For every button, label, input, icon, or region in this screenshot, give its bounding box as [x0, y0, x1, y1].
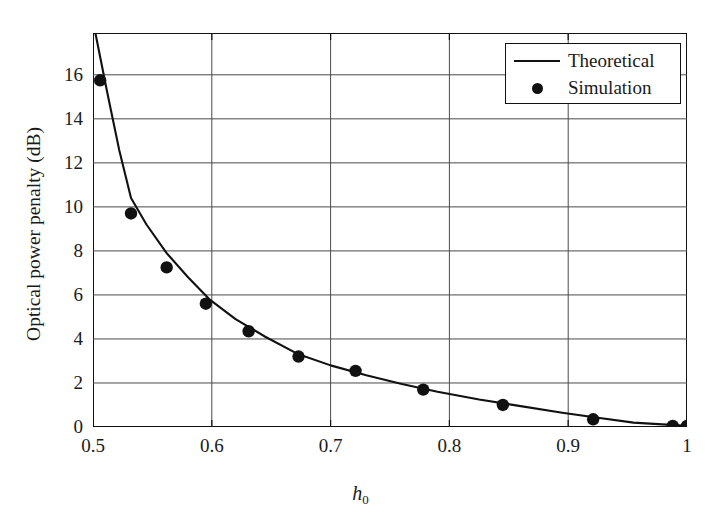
legend-item-simulation: Simulation	[506, 74, 682, 102]
chart-figure: 0246810121416 0.50.60.70.80.91 Optical p…	[0, 0, 721, 526]
y-tick-label: 10	[49, 197, 83, 216]
legend-label-theoretical: Theoretical	[568, 50, 655, 72]
data-point	[349, 365, 361, 377]
x-tick-label: 1	[657, 436, 717, 455]
data-point	[242, 325, 254, 337]
data-point	[292, 350, 304, 362]
y-tick-label: 2	[49, 373, 83, 392]
x-tick-label: 0.6	[182, 436, 242, 455]
x-tick-label: 0.5	[63, 436, 123, 455]
y-tick-label: 0	[49, 417, 83, 436]
data-point	[587, 413, 599, 425]
x-axis-label: h0	[0, 482, 721, 508]
x-tick-label: 0.9	[538, 436, 598, 455]
x-axis-label-symbol: h	[352, 482, 362, 504]
legend-line-swatch	[506, 47, 568, 75]
y-tick-label: 8	[49, 241, 83, 260]
data-point	[417, 383, 429, 395]
x-tick-label: 0.8	[419, 436, 479, 455]
legend-label-simulation: Simulation	[568, 77, 651, 99]
data-point	[667, 420, 679, 427]
data-point	[200, 298, 212, 310]
legend-dot-swatch	[506, 74, 568, 102]
legend: Theoretical Simulation	[505, 43, 681, 104]
data-point	[497, 399, 509, 411]
y-tick-label: 12	[49, 153, 83, 172]
data-point	[681, 420, 687, 427]
y-tick-label: 4	[49, 329, 83, 348]
y-tick-label: 6	[49, 285, 83, 304]
data-point	[125, 207, 137, 219]
y-axis-label: Optical power penalty (dB)	[23, 69, 45, 399]
x-tick-label: 0.7	[301, 436, 361, 455]
y-tick-label: 14	[49, 109, 83, 128]
x-axis-label-subscript: 0	[362, 492, 369, 507]
data-point	[94, 74, 106, 86]
y-tick-label: 16	[49, 65, 83, 84]
data-point	[160, 261, 172, 273]
legend-item-theoretical: Theoretical	[506, 47, 682, 75]
